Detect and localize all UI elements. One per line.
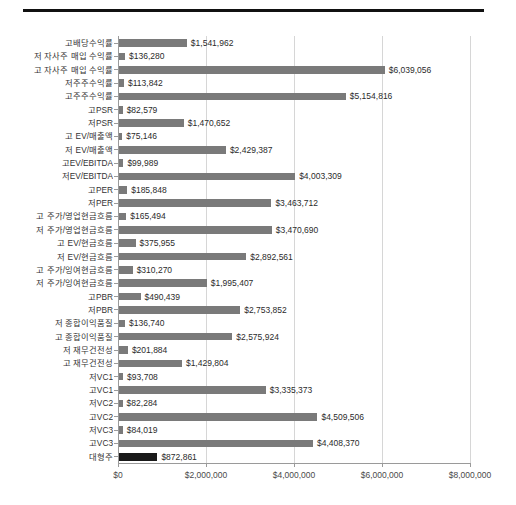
- y-axis-tick: [114, 443, 118, 444]
- x-axis-tick-label: $0: [113, 470, 122, 480]
- y-axis-tick: [114, 256, 118, 257]
- bar: [119, 213, 126, 221]
- bar: [119, 66, 385, 74]
- bar: [119, 426, 123, 434]
- bar: [119, 320, 125, 328]
- x-axis-tick: [294, 463, 295, 467]
- y-axis-tick: [114, 456, 118, 457]
- bar: [119, 93, 346, 101]
- x-axis-tick-label: $8,000,000: [449, 470, 492, 480]
- bar: [119, 440, 313, 448]
- y-axis-tick: [114, 376, 118, 377]
- y-axis-tick: [114, 283, 118, 284]
- y-axis-tick: [114, 176, 118, 177]
- bar: [119, 226, 272, 234]
- x-axis-tick-label: $2,000,000: [185, 470, 228, 480]
- bar: [119, 79, 124, 87]
- x-axis-tick: [118, 463, 119, 467]
- y-axis-tick: [114, 56, 118, 57]
- x-axis-tick-label: $4,000,000: [273, 470, 316, 480]
- y-axis-tick: [114, 136, 118, 137]
- bar: [119, 186, 127, 194]
- y-axis-tick: [114, 149, 118, 150]
- x-axis-tick: [382, 463, 383, 467]
- y-axis-tick: [114, 403, 118, 404]
- y-axis-tick: [114, 123, 118, 124]
- x-axis-tick: [470, 463, 471, 467]
- bar: [119, 119, 184, 127]
- y-axis-tick: [114, 229, 118, 230]
- x-axis-tick: [206, 463, 207, 467]
- y-axis-tick: [114, 243, 118, 244]
- y-axis-tick: [114, 96, 118, 97]
- y-axis-tick: [114, 430, 118, 431]
- bar: [119, 400, 123, 408]
- bar: [119, 293, 141, 301]
- bar: [119, 360, 182, 368]
- bar: [119, 266, 133, 274]
- y-axis-tick: [114, 416, 118, 417]
- bar: [119, 53, 125, 61]
- y-axis-tick: [114, 43, 118, 44]
- y-axis-tick: [114, 390, 118, 391]
- bar: [119, 279, 207, 287]
- top-divider-rule: [23, 9, 484, 12]
- bar: [119, 173, 295, 181]
- bar: [119, 386, 266, 394]
- bar: [119, 306, 240, 314]
- y-axis-tick: [114, 309, 118, 310]
- bar-chart: 고배당수익률$1,541,962저 자사주 매입 수익률$136,280고 자사…: [0, 0, 516, 505]
- y-axis-tick: [114, 163, 118, 164]
- x-axis-tick-label: $6,000,000: [361, 470, 404, 480]
- bar: [119, 199, 271, 207]
- bar: [119, 253, 246, 261]
- y-axis-tick: [114, 350, 118, 351]
- y-axis-tick: [114, 336, 118, 337]
- bar: [119, 453, 157, 461]
- bar: [119, 239, 136, 247]
- y-axis-tick: [114, 323, 118, 324]
- bar: [119, 346, 128, 354]
- bar: [119, 39, 187, 47]
- bar: [119, 106, 123, 114]
- bar: [119, 159, 123, 167]
- y-axis-tick: [114, 203, 118, 204]
- y-axis-tick: [114, 189, 118, 190]
- bar: [119, 373, 123, 381]
- bar: [119, 413, 317, 421]
- bar: [119, 333, 232, 341]
- y-axis-tick: [114, 216, 118, 217]
- bar: [119, 146, 226, 154]
- y-axis-tick: [114, 83, 118, 84]
- y-axis-tick: [114, 296, 118, 297]
- y-axis-tick: [114, 269, 118, 270]
- category-label: 대형주: [0, 450, 113, 465]
- y-axis-tick: [114, 109, 118, 110]
- y-axis-tick: [114, 363, 118, 364]
- y-axis-tick: [114, 69, 118, 70]
- bar: [119, 133, 122, 141]
